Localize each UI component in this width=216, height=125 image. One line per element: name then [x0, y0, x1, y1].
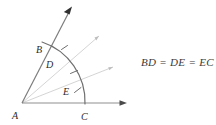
baseline-ray-ac-group	[22, 100, 127, 106]
ray-ae-arrowhead-icon	[108, 67, 113, 70]
label-c: C	[81, 111, 88, 122]
ray-ae	[22, 67, 113, 103]
label-a: A	[11, 110, 19, 121]
tick-ec-icon	[75, 88, 82, 93]
label-e: E	[62, 86, 69, 97]
label-b: B	[36, 44, 42, 55]
tick-bd-icon	[62, 46, 68, 50]
ray-ab	[22, 12, 69, 103]
ray-ab-arrowhead-icon	[64, 7, 72, 15]
label-d: D	[45, 59, 54, 70]
ray-ac-arrowhead-icon	[120, 100, 128, 106]
ray-ad	[22, 36, 99, 103]
equation-caption: BD = DE = EC	[141, 56, 214, 68]
geometry-diagram: A B C D E BD = DE = EC	[0, 0, 216, 125]
tick-de-icon	[71, 71, 78, 74]
